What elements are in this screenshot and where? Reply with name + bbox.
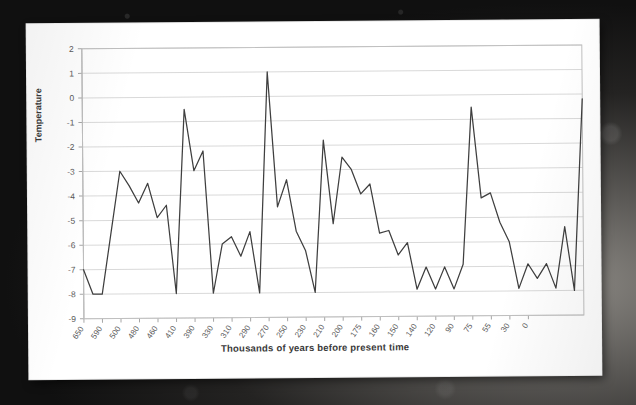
x-tick-label: 250 — [274, 323, 289, 340]
y-tick-label: -3 — [67, 167, 75, 177]
x-tick-label: 590 — [89, 324, 104, 341]
gridline — [84, 290, 584, 294]
photograph-background: Temperature Thousands of years before pr… — [0, 0, 636, 405]
x-tick-label: 75 — [462, 321, 475, 334]
gridline — [82, 119, 582, 123]
y-tick-label: -2 — [67, 142, 75, 152]
y-tick-label: -5 — [68, 216, 76, 226]
x-tick-label: 480 — [126, 324, 141, 341]
x-tick-label: 270 — [256, 323, 271, 340]
y-tick-label: 2 — [69, 44, 74, 54]
chart-card: Temperature Thousands of years before pr… — [27, 20, 602, 379]
y-tick-label: -4 — [67, 191, 75, 201]
y-tick-label: 1 — [69, 68, 74, 78]
gridline — [83, 192, 583, 196]
x-tick-label: 500 — [108, 324, 123, 341]
gridline — [83, 168, 583, 172]
y-axis-tick-labels: 210-1-2-3-4-5-6-7-8-9 — [66, 44, 76, 324]
y-tick-label: -6 — [68, 240, 76, 250]
x-tick-label: 290 — [237, 323, 252, 340]
y-tick-label: -8 — [68, 289, 76, 299]
x-tick-label: 175 — [348, 322, 363, 339]
plot-area: 210-1-2-3-4-5-6-7-8-9 650590500480460410… — [27, 20, 602, 379]
x-tick-label: 150 — [385, 322, 400, 339]
y-tick-label: -7 — [68, 265, 76, 275]
temperature-data-line — [82, 69, 584, 294]
plot-border — [82, 45, 584, 319]
y-tick-label: -1 — [67, 118, 75, 128]
gridline — [82, 94, 582, 98]
x-tick-label: 30 — [499, 321, 512, 334]
x-tick-label: 0 — [520, 321, 530, 330]
x-tick-label: 120 — [423, 322, 438, 339]
y-tick-label: 0 — [69, 93, 74, 103]
x-tick-label: 310 — [219, 323, 234, 340]
x-tick-label: 460 — [145, 324, 160, 341]
x-tick-label: 140 — [404, 322, 419, 339]
x-tick-label: 160 — [367, 322, 382, 339]
gridline — [84, 266, 584, 270]
gridline — [83, 143, 583, 147]
x-tick-label: 200 — [330, 322, 345, 339]
x-tick-label: 90 — [444, 321, 457, 334]
gridline — [83, 241, 583, 245]
x-tick-label: 210 — [311, 323, 326, 340]
x-tick-label: 390 — [182, 324, 197, 341]
gridlines — [78, 45, 584, 319]
gridline — [82, 69, 582, 73]
x-tick-label: 410 — [163, 324, 178, 341]
x-tick-label: 330 — [200, 323, 215, 340]
x-axis-tick-marks — [84, 315, 528, 322]
x-tick-label: 650 — [71, 324, 86, 341]
x-tick-label: 230 — [293, 323, 308, 340]
x-tick-label: 55 — [481, 321, 494, 334]
temperature-line-chart: Temperature Thousands of years before pr… — [27, 20, 602, 379]
x-axis-tick-labels: 6505905004804604103903303102902702502302… — [71, 321, 531, 341]
y-tick-label: -9 — [68, 314, 76, 324]
